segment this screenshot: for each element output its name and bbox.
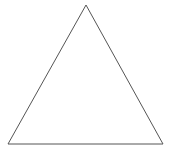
- triangle-diagram: [0, 0, 172, 150]
- diagram-canvas: [0, 0, 172, 150]
- triangle-shape: [8, 5, 163, 144]
